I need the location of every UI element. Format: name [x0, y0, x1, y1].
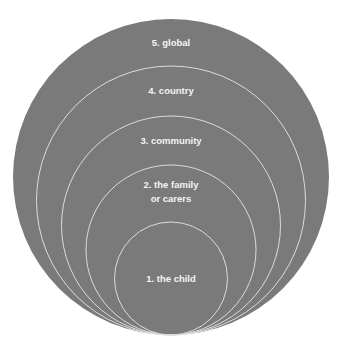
level-label-2-family-line2: or carers: [151, 193, 192, 204]
level-label-4-country: 4. country: [148, 85, 194, 96]
level-label-2-family-line1: 2. the family: [144, 179, 200, 190]
level-label-5-global: 5. global: [152, 37, 191, 48]
level-label-3-community: 3. community: [140, 135, 202, 146]
nested-levels-diagram: 5. global 4. country 3. community 2. the…: [0, 0, 344, 353]
level-label-1-child: 1. the child: [146, 273, 196, 284]
